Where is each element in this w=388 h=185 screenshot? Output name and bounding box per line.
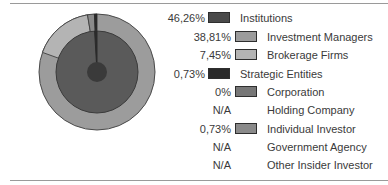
legend-swatch: [235, 49, 257, 60]
legend-label: Other Insider Investor: [267, 158, 373, 172]
bottom-divider: [10, 180, 388, 181]
legend-label: Institutions: [240, 11, 293, 25]
legend-label: Government Agency: [267, 140, 367, 154]
top-divider: [10, 3, 388, 4]
legend-item: N/AOther Insider Investor: [0, 158, 388, 172]
legend-value: N/A: [171, 103, 231, 117]
legend-label: Corporation: [267, 85, 324, 99]
legend-item: 0%Corporation: [0, 85, 388, 99]
legend-value: N/A: [171, 140, 231, 154]
legend-item: 46,26%Institutions: [0, 11, 388, 25]
legend-swatch: [235, 86, 257, 97]
legend-value: N/A: [171, 158, 231, 172]
legend-value: 0,73%: [171, 122, 231, 136]
legend-value: 38,81%: [171, 30, 231, 44]
legend-item: 38,81%Investment Managers: [0, 30, 388, 44]
legend-value: 7,45%: [171, 48, 231, 62]
legend-swatch: [208, 68, 230, 79]
legend-swatch: [208, 12, 230, 23]
legend-item: 0,73%Strategic Entities: [0, 67, 388, 81]
legend-label: Brokerage Firms: [267, 48, 348, 62]
legend-swatch: [235, 123, 257, 134]
legend-label: Investment Managers: [267, 30, 373, 44]
legend-label: Holding Company: [267, 103, 354, 117]
legend-item: N/AHolding Company: [0, 103, 388, 117]
legend-value: 0,73%: [145, 67, 205, 81]
legend-item: 7,45%Brokerage Firms: [0, 48, 388, 62]
legend-swatch: [235, 31, 257, 42]
legend-item: 0,73%Individual Investor: [0, 122, 388, 136]
legend-label: Strategic Entities: [240, 67, 323, 81]
legend-value: 0%: [171, 85, 231, 99]
legend-label: Individual Investor: [267, 122, 356, 136]
legend-item: N/AGovernment Agency: [0, 140, 388, 154]
legend-value: 46,26%: [145, 11, 205, 25]
